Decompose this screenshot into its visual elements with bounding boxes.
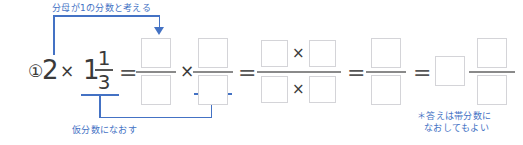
answer-box[interactable] — [435, 56, 465, 86]
multiplication-symbol-1: × — [60, 63, 74, 80]
cross-symbol-denominator: × — [292, 82, 305, 97]
answer-note-line-1: ＊答えは帯分数に — [417, 110, 491, 122]
cross-symbol-numerator: × — [292, 46, 305, 61]
worksheet-canvas: 分母が1の分数と考える ① 2 × 1 1 3 仮分数になおす = × = × … — [0, 0, 523, 145]
annotation-top-line-horizontal — [53, 15, 160, 17]
fraction-bar — [366, 71, 406, 73]
answer-box[interactable] — [261, 40, 288, 67]
annotation-top-line-vertical-left — [53, 15, 55, 55]
answer-box[interactable] — [371, 75, 401, 105]
answer-box[interactable] — [198, 38, 228, 68]
answer-note: ＊答えは帯分数に なおしてもよい — [417, 110, 491, 134]
equals-sign-2: = — [238, 62, 256, 84]
annotation-bottom-line-vertical-left — [99, 94, 101, 118]
answer-box[interactable] — [309, 76, 336, 103]
answer-box[interactable] — [371, 38, 401, 68]
mixed-number-numerator: 1 — [94, 48, 114, 68]
whole-factor: 2 — [42, 57, 59, 83]
answer-box[interactable] — [198, 75, 228, 105]
answer-box[interactable] — [141, 38, 171, 68]
answer-box[interactable] — [261, 76, 288, 103]
fraction-bar — [193, 71, 233, 73]
annotation-bottom-text: 仮分数になおす — [72, 124, 137, 136]
answer-box[interactable] — [477, 75, 507, 105]
annotation-bottom-line-horizontal — [99, 117, 212, 119]
answer-note-line-2: なおしてもよい — [417, 122, 491, 134]
mixed-number-fraction: 1 3 — [94, 48, 114, 92]
annotation-bottom-line-vertical-right — [211, 104, 213, 117]
fraction-bar — [257, 71, 341, 73]
equals-sign-3: = — [347, 62, 365, 84]
fraction-bar — [469, 71, 515, 73]
answer-box[interactable] — [477, 38, 507, 68]
annotation-top-text: 分母が1の分数と考える — [52, 2, 151, 14]
annotation-arrow-down-icon — [154, 27, 164, 35]
mixed-number-denominator: 3 — [94, 72, 114, 92]
answer-box[interactable] — [309, 40, 336, 67]
equals-sign-4: = — [413, 62, 431, 84]
item-number: ① — [28, 63, 43, 80]
equals-sign-1: = — [119, 62, 137, 84]
answer-box[interactable] — [141, 75, 171, 105]
fraction-bar — [136, 71, 176, 73]
